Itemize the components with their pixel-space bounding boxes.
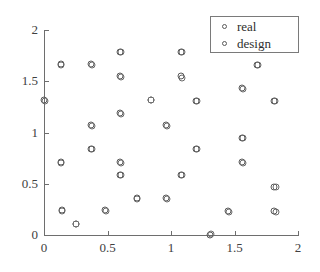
x-tick-label: 2: [295, 240, 302, 256]
y-tick-label: 1.5: [22, 73, 38, 89]
data-point-design: [163, 122, 170, 129]
legend-label-design: design: [237, 37, 271, 50]
data-point-design: [239, 85, 246, 92]
data-point-design: [117, 73, 124, 80]
data-point-design: [178, 172, 185, 179]
y-tick: [45, 235, 49, 236]
data-point-design: [194, 98, 201, 105]
y-tick-label: 0: [32, 227, 39, 243]
data-point-design: [41, 97, 48, 104]
legend-box: real design: [210, 16, 299, 53]
circle-marker-icon: [222, 24, 227, 29]
data-point-design: [117, 172, 124, 179]
data-point-design: [272, 208, 279, 215]
data-point-design: [59, 207, 66, 214]
data-point-design: [208, 231, 215, 238]
data-point-design: [102, 207, 109, 214]
data-point-design: [134, 195, 141, 202]
data-point-design: [88, 146, 95, 153]
legend-label-real: real: [237, 20, 256, 33]
data-point-design: [88, 122, 95, 129]
x-tick-label: 1.5: [226, 240, 242, 256]
x-tick: [298, 231, 299, 235]
data-point-design: [239, 135, 246, 142]
legend-entry-design: design: [211, 35, 298, 52]
y-tick-label: 1: [32, 125, 39, 141]
data-point-design: [225, 208, 232, 215]
scatter-plot-figure: real design 00.511.5200.511.52: [0, 0, 320, 272]
data-point-design: [239, 159, 246, 166]
legend-marker-design-wrap: [211, 41, 237, 46]
x-tick-label: 1: [168, 240, 175, 256]
data-point-design: [148, 97, 155, 104]
data-point-design: [178, 49, 185, 56]
data-point-design: [73, 221, 80, 228]
data-point-design: [117, 159, 124, 166]
plot-area: [44, 30, 298, 235]
x-tick-label: 0.5: [99, 240, 115, 256]
legend-entry-real: real: [211, 18, 298, 35]
data-point-design: [117, 110, 124, 117]
y-tick-label: 0.5: [22, 176, 38, 192]
legend-marker-real-wrap: [211, 24, 237, 29]
x-tick-label: 0: [41, 240, 48, 256]
data-point-design: [117, 49, 124, 56]
data-point-design: [271, 98, 278, 105]
data-point-design: [254, 62, 261, 69]
data-point-design: [58, 62, 65, 69]
data-point-design: [88, 62, 95, 69]
data-point-design: [58, 159, 65, 166]
circle-marker-icon: [222, 41, 227, 46]
data-point-design: [272, 184, 279, 191]
y-tick-label: 2: [32, 22, 39, 38]
data-point-design: [163, 195, 170, 202]
x-axis-line: [44, 235, 299, 236]
data-point-design: [194, 146, 201, 153]
data-point-design: [178, 74, 185, 81]
